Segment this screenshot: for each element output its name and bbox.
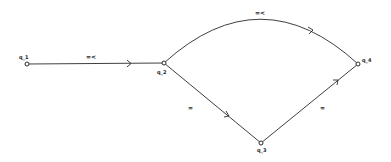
edge-q3-q4: = [261,64,358,143]
edge-label-q1-q2: =< [86,53,96,60]
node-label-q3: q_3 [257,147,267,154]
edge-q1-q2: =< [27,53,164,67]
edge-q2-q4: =< [164,9,358,64]
edge-q2-q3: = [164,63,261,143]
node-q4[interactable]: q_4 [356,57,372,66]
node-label-q2: q_2 [157,69,167,76]
edge-label-q2-q4: =< [255,9,265,16]
node-q1[interactable]: q_1 [19,54,29,66]
edge-label-q2-q3: = [188,104,193,111]
node-label-q4: q_4 [362,57,372,64]
node-q3[interactable]: q_3 [257,141,267,154]
node-label-q1: q_1 [19,54,29,61]
state-diagram: =< =< = = q_1 q_2 q_3 q_4 [0,0,391,162]
edge-label-q3-q4: = [320,104,325,111]
